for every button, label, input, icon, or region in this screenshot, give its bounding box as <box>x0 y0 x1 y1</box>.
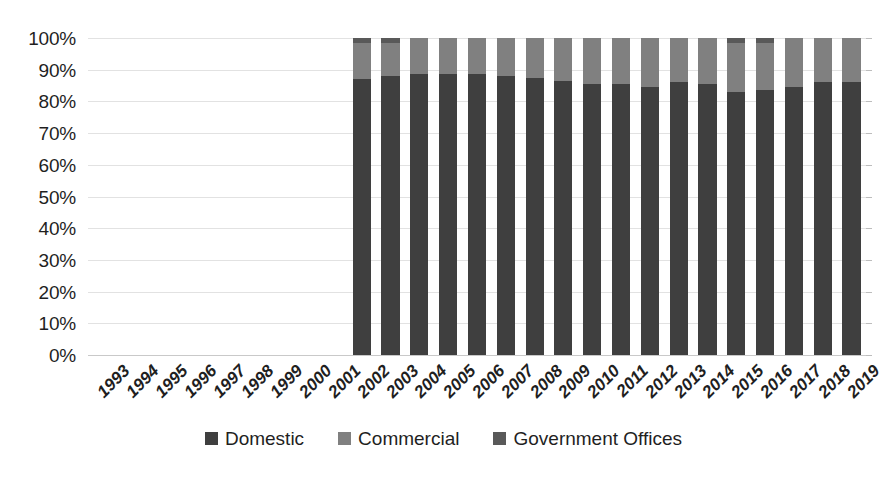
bar-slot-1995 <box>146 38 175 355</box>
bar-segment-domestic[interactable] <box>497 76 515 355</box>
bar-stack[interactable] <box>554 38 572 355</box>
bar-stack[interactable] <box>410 38 428 355</box>
bar-segment-domestic[interactable] <box>439 74 457 355</box>
bar-segment-domestic[interactable] <box>583 84 601 355</box>
bar-slot-1998 <box>232 38 261 355</box>
bar-segment-domestic[interactable] <box>727 92 745 355</box>
x-axis-slot: 2019 <box>837 356 866 424</box>
bar-segment-domestic[interactable] <box>410 74 428 355</box>
bar-stack[interactable] <box>266 38 284 355</box>
bar-slot-2004 <box>405 38 434 355</box>
bar-slot-2005 <box>434 38 463 355</box>
bar-slot-1996 <box>174 38 203 355</box>
bar-segment-domestic[interactable] <box>526 78 544 355</box>
bar-stack[interactable] <box>842 38 860 355</box>
bar-segment-domestic[interactable] <box>381 76 399 355</box>
bar-stack[interactable] <box>151 38 169 355</box>
bar-stack[interactable] <box>209 38 227 355</box>
bar-stack[interactable] <box>814 38 832 355</box>
bar-segment-commercial[interactable] <box>814 38 832 82</box>
bar-stack[interactable] <box>641 38 659 355</box>
legend-swatch-icon <box>205 432 218 445</box>
bar-stack[interactable] <box>497 38 515 355</box>
legend-label: Domestic <box>225 429 304 448</box>
bar-stack[interactable] <box>353 38 371 355</box>
bar-segment-commercial[interactable] <box>497 38 515 76</box>
x-axis: 1993199419951996199719981999200020012002… <box>88 356 866 424</box>
legend-item-domestic[interactable]: Domestic <box>205 429 304 448</box>
y-tickmark <box>866 228 872 229</box>
bar-segment-commercial[interactable] <box>554 38 572 81</box>
bar-segment-commercial[interactable] <box>612 38 630 84</box>
bar-stack[interactable] <box>756 38 774 355</box>
y-tickmark <box>866 355 872 356</box>
bar-stack[interactable] <box>439 38 457 355</box>
bar-segment-domestic[interactable] <box>785 87 803 355</box>
bar-slot-2017 <box>780 38 809 355</box>
bar-segment-commercial[interactable] <box>842 38 860 82</box>
bar-slot-2002 <box>347 38 376 355</box>
x-axis-slot: 2018 <box>808 356 837 424</box>
bar-segment-commercial[interactable] <box>583 38 601 84</box>
bar-segment-commercial[interactable] <box>670 38 688 82</box>
bar-slot-2010 <box>578 38 607 355</box>
x-axis-slot: 2004 <box>405 356 434 424</box>
bar-segment-domestic[interactable] <box>554 81 572 355</box>
x-axis-slot: 2010 <box>578 356 607 424</box>
bar-segment-domestic[interactable] <box>756 90 774 355</box>
x-axis-slot: 2009 <box>549 356 578 424</box>
legend-item-government-offices[interactable]: Government Offices <box>493 429 682 448</box>
bar-segment-commercial[interactable] <box>381 43 399 76</box>
bar-segment-domestic[interactable] <box>814 82 832 355</box>
bar-stack[interactable] <box>785 38 803 355</box>
bar-segment-commercial[interactable] <box>698 38 716 84</box>
bar-stack[interactable] <box>122 38 140 355</box>
bar-stack[interactable] <box>237 38 255 355</box>
bar-segment-commercial[interactable] <box>468 38 486 74</box>
bar-segment-domestic[interactable] <box>670 82 688 355</box>
bar-slot-2015 <box>722 38 751 355</box>
bar-stack[interactable] <box>526 38 544 355</box>
y-tickmark <box>866 38 872 39</box>
bar-segment-domestic[interactable] <box>641 87 659 355</box>
bar-stack[interactable] <box>468 38 486 355</box>
bar-segment-domestic[interactable] <box>612 84 630 355</box>
bar-segment-commercial[interactable] <box>439 38 457 74</box>
bar-stack[interactable] <box>698 38 716 355</box>
bar-slot-2009 <box>549 38 578 355</box>
x-axis-slot: 2002 <box>347 356 376 424</box>
legend-label: Government Offices <box>513 429 682 448</box>
y-tickmark <box>866 133 872 134</box>
bar-segment-commercial[interactable] <box>410 38 428 74</box>
bar-slot-2013 <box>664 38 693 355</box>
bar-stack[interactable] <box>727 38 745 355</box>
bar-stack[interactable] <box>612 38 630 355</box>
bar-segment-domestic[interactable] <box>698 84 716 355</box>
y-tickmark <box>866 165 872 166</box>
bar-segment-commercial[interactable] <box>641 38 659 87</box>
bar-stack[interactable] <box>670 38 688 355</box>
bar-stack[interactable] <box>295 38 313 355</box>
bar-slot-1993 <box>88 38 117 355</box>
bar-segment-commercial[interactable] <box>526 38 544 78</box>
x-axis-slot: 1994 <box>117 356 146 424</box>
bar-segment-commercial[interactable] <box>785 38 803 87</box>
legend-item-commercial[interactable]: Commercial <box>338 429 459 448</box>
bar-segment-domestic[interactable] <box>842 82 860 355</box>
bar-slot-1999 <box>261 38 290 355</box>
bar-segment-domestic[interactable] <box>468 74 486 355</box>
x-axis-slot: 2006 <box>463 356 492 424</box>
bar-stack[interactable] <box>381 38 399 355</box>
bar-segment-commercial[interactable] <box>353 43 371 79</box>
bar-slot-2012 <box>635 38 664 355</box>
bar-segment-commercial[interactable] <box>756 43 774 91</box>
bar-stack[interactable] <box>180 38 198 355</box>
bar-stack[interactable] <box>583 38 601 355</box>
x-axis-slot: 2012 <box>635 356 664 424</box>
bar-stack[interactable] <box>93 38 111 355</box>
bars-layer <box>88 38 866 355</box>
bar-stack[interactable] <box>324 38 342 355</box>
bar-segment-commercial[interactable] <box>727 43 745 92</box>
bar-segment-domestic[interactable] <box>353 79 371 355</box>
bar-slot-2003 <box>376 38 405 355</box>
